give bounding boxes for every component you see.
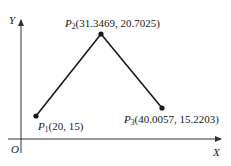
point-p2 — [98, 31, 103, 36]
point-p1 — [33, 113, 38, 118]
p1-label: P1(20, 15) — [37, 120, 84, 134]
y-axis-label: Y — [9, 14, 17, 26]
path-line — [36, 34, 162, 116]
coordinate-diagram: Y O X P2(31.3469, 20.7025) P1(20, 15) P3… — [0, 0, 231, 166]
point-p3 — [159, 105, 164, 110]
p3-label: P3(40.0057, 15.2203) — [123, 113, 219, 127]
x-axis-label: X — [212, 146, 221, 158]
origin-label: O — [11, 143, 19, 155]
p2-label: P2(31.3469, 20.7025) — [64, 17, 160, 31]
